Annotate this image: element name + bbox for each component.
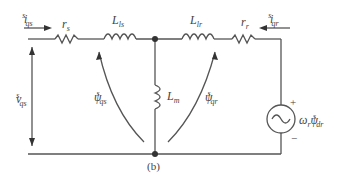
label-rr: rr: [241, 16, 249, 31]
label-psiqr: ψsqr: [205, 90, 218, 106]
node-top: [152, 36, 158, 42]
label-iqr: isqr: [270, 12, 279, 28]
label-psiqs: ψsqs: [94, 90, 107, 106]
arrow-iqs: [44, 25, 52, 31]
label-rs: rs: [62, 18, 70, 33]
label-lm: Lm: [167, 90, 179, 105]
label-vqs: vsqs: [16, 92, 27, 108]
arrow-iqr: [259, 25, 267, 31]
node-bottom: [152, 151, 158, 157]
inductor-llr: [182, 34, 214, 39]
minus-sign: −: [291, 132, 297, 144]
resistor-rs: [55, 35, 78, 43]
label-llr: Llr: [190, 14, 202, 29]
arrow-vqs-down: [29, 138, 35, 146]
resistor-rr: [232, 35, 255, 43]
caption: (b): [147, 160, 160, 172]
arrow-psiqr: [212, 52, 218, 60]
inductor-lm: [155, 85, 160, 109]
label-lls: Lls: [112, 14, 124, 29]
label-source: ωrψsdr: [299, 113, 323, 129]
plus-sign: +: [290, 96, 296, 108]
arrow-psiqs: [96, 52, 102, 60]
label-iqs: isqs: [24, 12, 33, 28]
inductor-lls: [104, 34, 136, 39]
arrow-vqs-up: [29, 47, 35, 55]
